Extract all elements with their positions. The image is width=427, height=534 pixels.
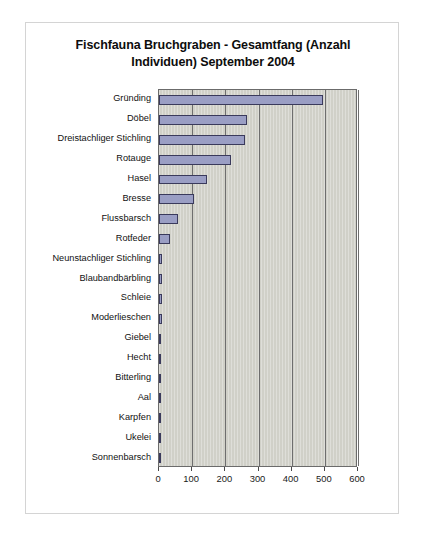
y-axis-label: Ukelei [22,432,151,442]
x-axis-tick-label: 400 [283,473,299,484]
gridline-600 [358,90,359,466]
chart-card: Fischfauna Bruchgraben - Gesamtfang (Anz… [25,22,399,514]
y-axis-label: Rotfeder [22,233,151,243]
bar [159,234,170,244]
x-axis-tick [291,467,292,471]
bar [159,453,161,463]
x-axis-tick [357,467,358,471]
y-axis-label: Bresse [22,193,151,203]
bar [159,433,161,443]
bar-rows [159,90,356,466]
y-axis-label: Karpfen [22,412,151,422]
bar [159,354,161,364]
y-axis-label: Gründing [22,93,151,103]
bar [159,135,245,145]
y-axis-label: Sonnenbarsch [22,452,151,462]
y-axis-label: Giebel [22,332,151,342]
bar [159,115,247,125]
y-axis-label: Döbel [22,113,151,123]
plot-wrapper: GründingDöbelDreistachliger StichlingRot… [26,23,400,515]
bar [159,194,194,204]
y-axis-label: Neunstachliger Stichling [22,253,151,263]
y-axis-category-labels: GründingDöbelDreistachliger StichlingRot… [26,89,155,467]
y-axis-label: Hasel [22,173,151,183]
x-axis-tick-label: 0 [155,473,160,484]
y-axis-label: Moderlieschen [22,312,151,322]
bar [159,314,162,324]
x-axis-tick [224,467,225,471]
x-axis-tick-label: 500 [316,473,332,484]
y-axis-label: Aal [22,392,151,402]
bar [159,155,231,165]
plot-area [158,89,357,467]
bar [159,254,162,264]
x-axis-tick-label: 300 [250,473,266,484]
bar [159,214,178,224]
bar [159,413,161,423]
y-axis-label: Dreistachliger Stichling [22,133,151,143]
y-axis-label: Hecht [22,352,151,362]
y-axis-label: Bitterling [22,372,151,382]
y-axis-label: Blaubandbärbling [22,273,151,283]
y-axis-label: Rotauge [22,153,151,163]
y-axis-label: Flussbarsch [22,213,151,223]
bar [159,95,323,105]
bar [159,175,207,185]
screenshot-root: Fischfauna Bruchgraben - Gesamtfang (Anz… [0,0,427,534]
x-axis-tick [324,467,325,471]
x-axis-tick-label: 100 [183,473,199,484]
y-axis-label: Schleie [22,292,151,302]
bar [159,393,161,403]
x-axis-tick [191,467,192,471]
x-axis-tick-label: 200 [217,473,233,484]
bar [159,334,161,344]
x-axis-tick [258,467,259,471]
bar [159,374,161,384]
x-axis-tick [158,467,159,471]
bar [159,274,162,284]
x-axis-tick-label: 600 [349,473,365,484]
bar [159,294,162,304]
